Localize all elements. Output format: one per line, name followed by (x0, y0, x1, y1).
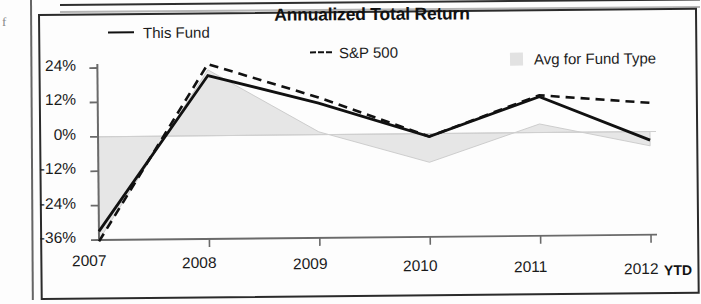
series-line-this-fund (97, 71, 650, 231)
y-axis-tick-label: 24% (12, 57, 76, 76)
x-axis-tick-label: 2012 (624, 260, 659, 278)
y-axis-tick-label: 12% (12, 91, 76, 110)
x-axis-line (99, 235, 657, 240)
x-axis-tick-label: 2009 (293, 255, 328, 273)
y-axis-tick-label: -24% (12, 194, 76, 213)
y-axis-tick-label: 0% (12, 126, 76, 145)
x-axis-ytd-label: YTD (664, 262, 692, 278)
y-axis-tick-label: -36% (12, 229, 76, 248)
x-axis-tick-label: 2008 (182, 253, 217, 271)
y-axis-line (97, 64, 99, 240)
series-line-sp500 (97, 60, 651, 242)
series-area-avg-fund-type (97, 66, 651, 240)
x-axis-tick-label: 2010 (403, 257, 438, 275)
x-axis-tick-label: 2007 (72, 252, 107, 270)
plot-area: 24%12%0%-12%-24%-36% 2007200820092010201… (0, 0, 701, 304)
chart-screenshot: f Annualized Total Return This Fund S&P … (0, 0, 701, 304)
x-axis-tick-label: 2011 (514, 258, 548, 276)
y-axis-tick-label: -12% (12, 160, 76, 179)
